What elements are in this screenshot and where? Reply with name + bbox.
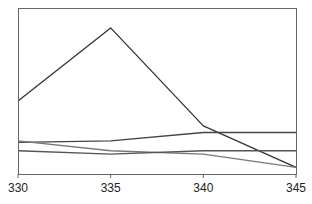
line-series-4 [18,151,296,154]
series-layer [18,28,296,167]
x-tick-label: 345 [286,181,306,195]
x-tick-label: 340 [193,181,213,195]
line-series-1 [18,28,296,167]
line-series-3 [18,141,296,168]
line-chart: 330335340345 [0,0,312,204]
x-axis: 330335340345 [8,174,306,195]
line-series-2 [18,133,296,143]
x-tick-label: 330 [8,181,28,195]
x-tick-label: 335 [101,181,121,195]
